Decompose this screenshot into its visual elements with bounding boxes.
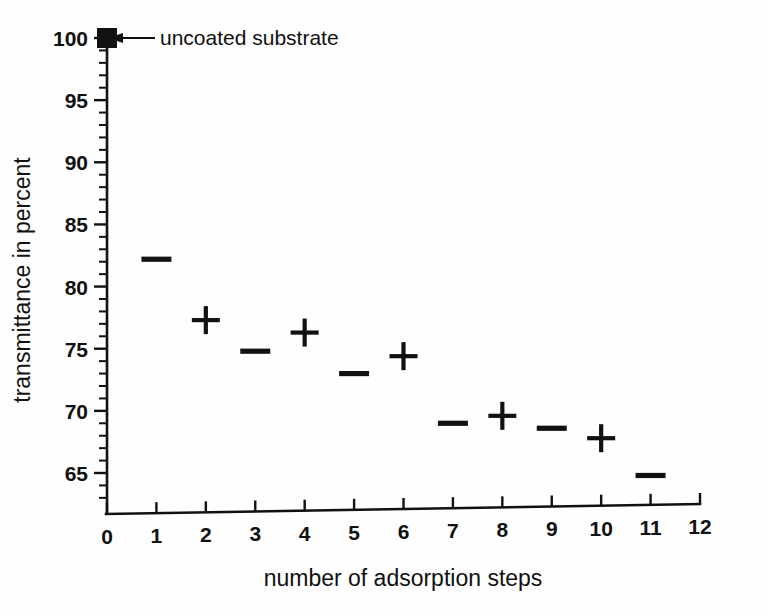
data-markers-group: [97, 28, 666, 475]
y-tick-label: 90: [65, 151, 88, 174]
y-tick-label: 80: [65, 276, 88, 299]
x-tick-label: 0: [101, 525, 113, 548]
data-point-plus: [587, 424, 615, 452]
figure-container: 65707580859095100 0123456789101112 uncoa…: [0, 0, 769, 615]
x-axis-title: number of adsorption steps: [264, 565, 543, 591]
data-point-plus: [390, 342, 418, 370]
y-axis-ticks: [94, 38, 107, 498]
x-axis-tick-labels: 0123456789101112: [101, 515, 712, 548]
x-tick-label: 12: [688, 515, 711, 538]
y-axis-title: transmittance in percent: [9, 157, 35, 403]
x-tick-label: 1: [151, 524, 163, 547]
annotation-text: uncoated substrate: [160, 26, 339, 49]
y-tick-label: 70: [65, 400, 88, 423]
x-tick-label: 5: [348, 521, 360, 544]
y-tick-label: 100: [53, 27, 88, 50]
y-tick-label: 95: [65, 89, 89, 112]
uncoated-substrate-annotation: uncoated substrate: [108, 26, 339, 49]
x-axis-ticks: [107, 493, 700, 514]
x-tick-label: 7: [447, 519, 459, 542]
y-tick-label: 65: [65, 462, 89, 485]
x-tick-label: 10: [589, 517, 612, 540]
x-tick-label: 8: [496, 518, 508, 541]
x-tick-label: 9: [546, 517, 558, 540]
x-tick-label: 2: [200, 523, 212, 546]
data-point-plus: [488, 402, 516, 430]
x-tick-label: 3: [249, 522, 261, 545]
transmittance-scatter-chart: 65707580859095100 0123456789101112 uncoa…: [0, 0, 769, 615]
y-axis-tick-labels: 65707580859095100: [53, 27, 88, 485]
data-point-plus: [291, 319, 319, 347]
y-tick-label: 75: [65, 338, 89, 361]
x-tick-label: 11: [639, 516, 662, 539]
x-tick-label: 4: [299, 522, 311, 545]
data-point-plus: [192, 306, 220, 334]
y-tick-label: 85: [65, 213, 89, 236]
x-tick-label: 6: [398, 520, 410, 543]
